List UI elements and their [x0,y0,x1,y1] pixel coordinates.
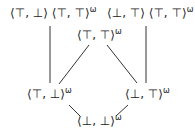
node-top: ⟨⊤, ⊤⟩ω [77,27,122,42]
node-top-sup: ω [115,27,122,36]
node-mid-right: ⟨⊥, ⊤⟩ω [125,86,170,101]
node-mid-right-sup: ω [163,86,170,95]
node-top-right-base: ⟨⊥, ⊤⟩ ⟨⊤, ⊤⟩ [107,6,187,20]
node-top-left-base: ⟨⊤, ⊥⟩ ⟨⊤, ⊤⟩ [10,6,90,20]
node-top-right: ⟨⊥, ⊤⟩ ⟨⊤, ⊤⟩ω [107,5,194,20]
node-bottom-base: ⟨⊥, ⊥⟩ [77,114,115,128]
hasse-diagram: ⟨⊤, ⊥⟩ ⟨⊤, ⊤⟩ω ⟨⊥, ⊤⟩ ⟨⊤, ⊤⟩ω ⟨⊤, ⊤⟩ω ⟨⊤… [0,0,195,137]
node-top-base: ⟨⊤, ⊤⟩ [77,28,115,42]
node-bottom: ⟨⊥, ⊥⟩ω [77,113,122,128]
node-top-right-sup: ω [187,5,194,14]
node-top-left: ⟨⊤, ⊥⟩ ⟨⊤, ⊤⟩ω [10,5,97,20]
node-mid-left-base: ⟨⊤, ⊥⟩ [27,87,65,101]
node-mid-left-sup: ω [65,86,72,95]
node-mid-right-base: ⟨⊥, ⊤⟩ [125,87,163,101]
edge-top-ml [59,45,89,84]
edge-top-mr [107,45,137,83]
node-bottom-sup: ω [115,113,122,122]
node-top-left-sup: ω [90,5,97,14]
node-mid-left: ⟨⊤, ⊥⟩ω [27,86,72,101]
